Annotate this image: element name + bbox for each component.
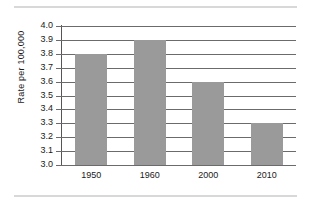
y-axis-tick-label: 3.4 bbox=[22, 103, 53, 113]
y-axis-tick-label: 3.2 bbox=[22, 131, 53, 141]
bar-1950 bbox=[75, 54, 107, 165]
bar-2010 bbox=[251, 123, 283, 165]
x-axis-tick-label: 2010 bbox=[237, 170, 297, 180]
y-axis-tick-label: 3.3 bbox=[22, 117, 53, 127]
y-axis-tick-label: 3.7 bbox=[22, 62, 53, 72]
y-axis-tick bbox=[56, 165, 62, 166]
x-axis-tick-label: 1950 bbox=[61, 170, 121, 180]
y-axis-tick bbox=[56, 151, 62, 152]
y-axis-tick-label: 3.6 bbox=[22, 76, 53, 86]
y-axis-tick bbox=[56, 123, 62, 124]
y-axis-tick bbox=[56, 68, 62, 69]
gridline bbox=[62, 40, 296, 41]
plot-area bbox=[62, 26, 296, 165]
bar-chart-figure: Rate per 100,000 3.03.13.23.33.43.53.63.… bbox=[0, 0, 311, 204]
y-axis-tick bbox=[56, 26, 62, 27]
y-axis-tick-label: 3.9 bbox=[22, 34, 53, 44]
y-axis-tick-label: 3.1 bbox=[22, 145, 53, 155]
y-axis-tick-label: 3.0 bbox=[22, 159, 53, 169]
gridline bbox=[62, 165, 296, 166]
y-axis-tick bbox=[56, 109, 62, 110]
x-axis-tick-label: 1960 bbox=[120, 170, 180, 180]
y-axis-tick bbox=[56, 54, 62, 55]
y-axis-tick-label: 3.8 bbox=[22, 48, 53, 58]
gridline bbox=[62, 26, 296, 27]
top-divider-rule bbox=[14, 6, 297, 8]
bar-1960 bbox=[134, 40, 166, 165]
y-axis-tick-label: 3.5 bbox=[22, 90, 53, 100]
y-axis-tick bbox=[56, 40, 62, 41]
x-axis-tick-label: 2000 bbox=[178, 170, 238, 180]
bar-2000 bbox=[192, 82, 224, 165]
bottom-divider-rule bbox=[14, 195, 297, 197]
y-axis-tick bbox=[56, 96, 62, 97]
y-axis-tick-label: 4.0 bbox=[22, 20, 53, 30]
y-axis-tick bbox=[56, 82, 62, 83]
y-axis-tick bbox=[56, 137, 62, 138]
